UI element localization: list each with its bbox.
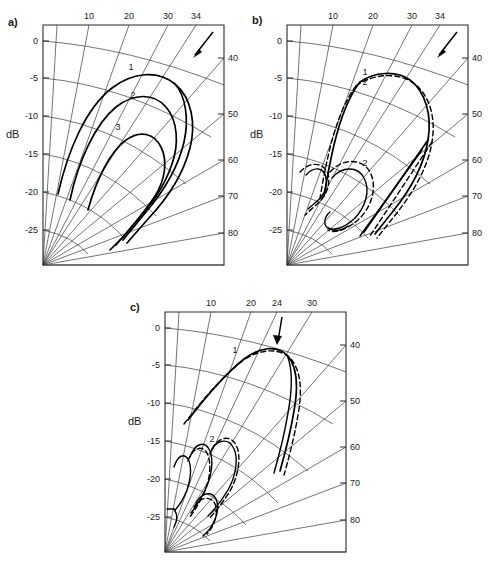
panel-c-radial-gridlines [165,312,346,552]
panel-a-arrow-icon [193,32,213,58]
panel-b-plot [244,0,488,287]
panel-b-arrow-icon [437,32,457,58]
panel-c-curve-1-dashed [184,351,300,475]
panel-c-arc-gridlines [165,328,346,541]
panel-c-plot [122,287,366,574]
panel-c: c) dB 10 20 24 30 0 -5 -10 -15 -20 -25 4… [122,287,366,574]
panel-c-frame [165,312,346,552]
panel-c-arrow-icon [273,317,282,345]
figure-root: a) dB 10 20 30 34 0 -5 -10 -15 -20 -25 4… [0,0,488,574]
panel-b: b) dB 10 20 30 34 0 -5 -10 -15 -20 -25 4… [244,0,488,287]
panel-b-frame [287,25,468,265]
panel-b-radial-gridlines [287,25,468,265]
panel-a-plot [0,0,244,287]
panel-a-radial-gridlines [43,25,224,265]
panel-a: a) dB 10 20 30 34 0 -5 -10 -15 -20 -25 4… [0,0,244,287]
panel-a-curve-1 [58,75,193,243]
panel-b-curve-1-left-limb-dashed [320,86,356,198]
panel-a-frame [43,25,224,265]
panel-b-lower-strokes [360,140,432,236]
panel-a-curve-3 [88,134,165,250]
